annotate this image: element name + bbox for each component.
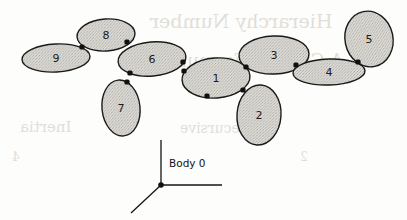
joint-1-2[interactable] — [240, 87, 245, 92]
joint-6-1[interactable] — [180, 59, 185, 64]
joint-6-8[interactable] — [124, 39, 129, 44]
body-label-5: 5 — [366, 33, 373, 46]
bodies-layer: 123456789 — [21, 7, 398, 147]
joint-3-4[interactable] — [293, 62, 298, 67]
body-label-6: 6 — [149, 53, 156, 66]
frame-axis-diagonal — [131, 185, 161, 213]
joint-1-6[interactable] — [181, 68, 186, 73]
body0-frame: Body 0 — [131, 140, 222, 213]
body-label-9: 9 — [53, 52, 60, 65]
joint-1-3[interactable] — [243, 64, 248, 69]
body-label-3: 3 — [271, 49, 278, 62]
frame-origin-marker[interactable] — [158, 182, 164, 188]
body-label-7: 7 — [118, 102, 125, 115]
joint-6-low[interactable] — [127, 70, 132, 75]
joint-1-low[interactable] — [204, 93, 209, 98]
body-label-2: 2 — [256, 109, 263, 122]
body-label-8: 8 — [103, 29, 110, 42]
body-label-4: 4 — [326, 66, 333, 79]
joint-4-5[interactable] — [355, 59, 360, 64]
body0-label: Body 0 — [169, 157, 206, 169]
joint-7[interactable] — [124, 79, 129, 84]
body-label-1: 1 — [213, 72, 220, 85]
multibody-tree-diagram: 123456789 Body 0 — [0, 0, 407, 220]
joint-8-9[interactable] — [79, 44, 84, 49]
